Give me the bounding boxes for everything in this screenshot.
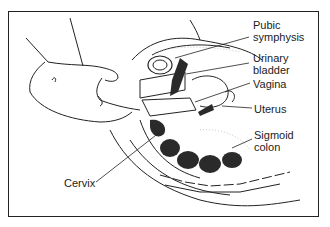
label-vagina: Vagina [253,78,286,90]
label-pubic-symphysis: Pubic symphysis [253,19,304,43]
gloved-hand-illustration [26,18,140,122]
label-uterus: Uterus [254,103,286,115]
label-urinary-bladder: Urinary bladder [253,52,290,76]
label-cervix: Cervix [64,177,95,189]
label-sigmoid-colon: Sigmoid colon [254,129,294,153]
